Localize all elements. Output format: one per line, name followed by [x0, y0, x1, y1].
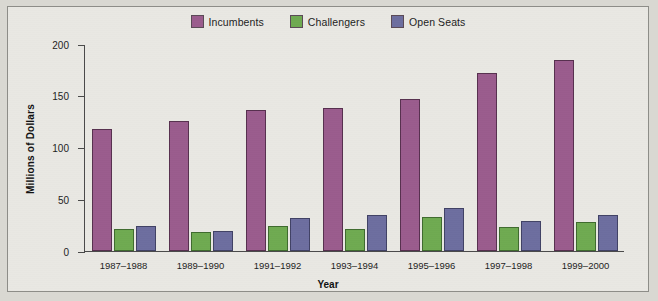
y-axis-tick-label: 50	[58, 194, 69, 205]
bar-challengers[interactable]	[191, 232, 211, 251]
bar-incumbents[interactable]	[554, 60, 574, 251]
bar-group: 1997–1998	[470, 45, 547, 251]
bar-open-seats[interactable]	[598, 215, 618, 251]
bar-challengers[interactable]	[576, 222, 596, 251]
bar-challengers[interactable]	[345, 229, 365, 251]
x-axis-title: Year	[8, 279, 648, 290]
bar-challengers[interactable]	[422, 217, 442, 251]
legend-item-challengers[interactable]: Challengers	[290, 15, 365, 28]
y-axis-title: Millions of Dollars	[25, 104, 36, 194]
legend-label-challengers: Challengers	[308, 16, 365, 28]
bar-challengers[interactable]	[114, 229, 134, 251]
y-axis-tick: 200	[78, 45, 85, 46]
bar-open-seats[interactable]	[444, 208, 464, 251]
x-axis-tick-label: 1999–2000	[547, 260, 624, 271]
legend-label-incumbents: Incumbents	[209, 16, 264, 28]
x-axis-tick-label: 1987–1988	[85, 260, 162, 271]
chart-legend: Incumbents Challengers Open Seats	[8, 15, 648, 28]
y-axis-tick: 50	[78, 200, 85, 201]
x-axis-tick-label: 1991–1992	[239, 260, 316, 271]
bar-open-seats[interactable]	[290, 218, 310, 251]
x-axis-line	[84, 251, 624, 252]
bar-incumbents[interactable]	[92, 129, 112, 251]
bar-group: 1999–2000	[547, 45, 624, 251]
legend-item-open-seats[interactable]: Open Seats	[391, 15, 465, 28]
bar-groups: 1987–19881989–19901991–19921993–19941995…	[85, 45, 624, 251]
y-axis-tick-label: 150	[52, 91, 69, 102]
x-axis-tick-label: 1995–1996	[393, 260, 470, 271]
legend-item-incumbents[interactable]: Incumbents	[191, 15, 264, 28]
bar-group: 1987–1988	[85, 45, 162, 251]
y-axis-tick: 0	[78, 252, 85, 253]
bar-challengers[interactable]	[499, 227, 519, 251]
y-axis-tick-label: 200	[52, 39, 69, 50]
bar-incumbents[interactable]	[323, 108, 343, 251]
bar-group: 1991–1992	[239, 45, 316, 251]
legend-swatch-open-seats	[391, 15, 404, 28]
y-axis-tick-label: 0	[63, 246, 69, 257]
bar-group: 1993–1994	[316, 45, 393, 251]
bar-group: 1989–1990	[162, 45, 239, 251]
y-axis-tick-label: 100	[52, 143, 69, 154]
bar-open-seats[interactable]	[213, 231, 233, 251]
bar-incumbents[interactable]	[400, 99, 420, 251]
bar-incumbents[interactable]	[477, 73, 497, 251]
bar-group: 1995–1996	[393, 45, 470, 251]
bar-open-seats[interactable]	[367, 215, 387, 251]
bar-challengers[interactable]	[268, 226, 288, 251]
x-axis-tick-label: 1993–1994	[316, 260, 393, 271]
chart-figure: Incumbents Challengers Open Seats Millio…	[7, 6, 649, 292]
y-axis-tick: 100	[78, 148, 85, 149]
plot-area: 200150100500 1987–19881989–19901991–1992…	[84, 45, 624, 252]
legend-swatch-incumbents	[191, 15, 204, 28]
bar-open-seats[interactable]	[521, 221, 541, 251]
x-axis-tick-label: 1989–1990	[162, 260, 239, 271]
bar-open-seats[interactable]	[136, 226, 156, 251]
bar-incumbents[interactable]	[246, 110, 266, 251]
legend-swatch-challengers	[290, 15, 303, 28]
bar-incumbents[interactable]	[169, 121, 189, 251]
x-axis-tick-label: 1997–1998	[470, 260, 547, 271]
y-axis-tick: 150	[78, 96, 85, 97]
legend-label-open-seats: Open Seats	[409, 16, 465, 28]
